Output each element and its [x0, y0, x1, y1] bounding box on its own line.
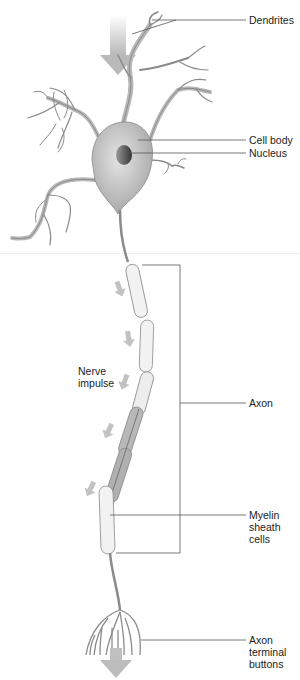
axon-distal — [110, 553, 120, 610]
label-cell-body: Cell body — [249, 134, 293, 146]
cell-body — [92, 122, 153, 214]
label-axon-terminal-buttons: Axon terminal buttons — [249, 634, 286, 670]
label-nerve-impulse: Nerve impulse — [78, 365, 114, 389]
neuron-diagram — [0, 0, 300, 680]
outgoing-signal-arrow-icon — [100, 648, 132, 678]
axon-initial-segment — [120, 210, 128, 262]
nucleus — [116, 145, 132, 165]
label-dendrites: Dendrites — [249, 14, 294, 26]
label-nucleus: Nucleus — [249, 147, 287, 159]
leader-lines — [110, 20, 246, 640]
myelin-sheath — [99, 263, 155, 554]
label-axon: Axon — [249, 397, 273, 409]
label-myelin-sheath-cells: Myelin sheath cells — [249, 509, 281, 545]
